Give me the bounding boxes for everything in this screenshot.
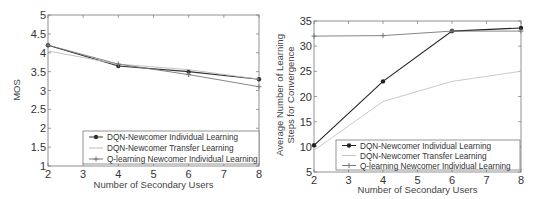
legend: DQN-Newcomer Individual LearningDQN-Newc…: [336, 140, 520, 171]
legend-label: DQN-Newcomer Individual Learning: [360, 142, 492, 151]
dot-marker-icon: [312, 143, 316, 147]
y-tick-label: 4: [40, 47, 46, 59]
x-tick-label: 7: [221, 168, 227, 180]
legend: DQN-Newcomer Individual LearningDQN-Newc…: [83, 131, 259, 164]
y-tick-label: 3.5: [31, 66, 46, 78]
x-tick-label: 8: [256, 168, 262, 180]
y-tick-label: 15: [300, 116, 312, 128]
x-tick-label: 3: [80, 168, 86, 180]
mos-chart: 234567811.522.533.544.55Number of Second…: [11, 9, 262, 190]
y-tick-label: 25: [300, 65, 312, 77]
y-tick-label: 4.5: [31, 28, 46, 40]
y-tick-label: 1.5: [31, 141, 46, 153]
y-tick-label: 10: [300, 141, 312, 153]
x-axis-label: Number of Secondary Users: [94, 179, 214, 190]
x-tick-label: 8: [518, 174, 524, 186]
legend-label: DQN-Newcomer Individual Learning: [107, 133, 239, 142]
dot-marker-icon: [381, 79, 385, 83]
y-tick-label: 35: [300, 15, 312, 27]
y-tick-label: 20: [300, 91, 312, 103]
y-axis-label: Steps for Convergence: [285, 46, 296, 143]
legend-label: DQN-Newcomer Transfer Learning: [107, 144, 234, 153]
y-tick-label: 1: [40, 160, 46, 172]
legend-label: Q-learning Newcomer Individual Learning: [107, 155, 258, 164]
y-axis-label: MOS: [11, 79, 22, 101]
x-tick-label: 7: [483, 174, 489, 186]
x-tick-label: 3: [345, 174, 351, 186]
y-tick-label: 2.5: [31, 103, 46, 115]
dot-marker-icon: [94, 135, 98, 139]
legend-label: DQN-Newcomer Transfer Learning: [360, 152, 487, 161]
y-tick-label: 5: [40, 9, 46, 21]
y-tick-label: 2: [40, 122, 46, 134]
legend-label: Q-learning Newcomer Individual Learning: [360, 162, 511, 171]
figure: 234567811.522.533.544.55Number of Second…: [0, 0, 539, 199]
y-tick-label: 5: [306, 166, 312, 178]
dot-marker-icon: [347, 143, 351, 147]
convergence-steps-chart: 23456785101520253035Number of Secondary …: [274, 15, 524, 195]
y-axis-label: Average Number of Learning: [274, 34, 285, 156]
x-axis-label: Number of Secondary Users: [358, 184, 478, 195]
y-tick-label: 3: [40, 85, 46, 97]
y-tick-label: 30: [300, 40, 312, 52]
